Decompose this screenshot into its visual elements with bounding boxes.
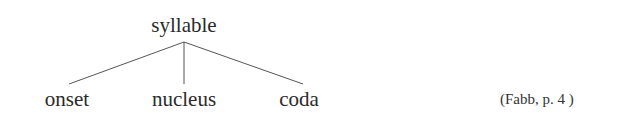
root-node-syllable: syllable [151, 15, 216, 36]
child-node-nucleus: nucleus [152, 89, 216, 110]
child-node-onset: onset [45, 89, 89, 110]
branch-onset [69, 42, 184, 84]
child-node-coda: coda [279, 89, 319, 110]
branch-coda [184, 42, 303, 84]
source-citation: (Fabb, p. 4 ) [500, 92, 574, 107]
